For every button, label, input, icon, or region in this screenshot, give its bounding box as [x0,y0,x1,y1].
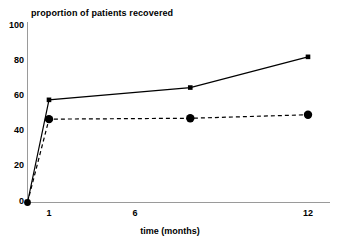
series-solid-line [28,57,309,203]
data-point-marker-circle [45,115,53,123]
series-dashed-line [28,115,309,203]
data-point-marker-circle [186,114,194,122]
data-point-marker-square [188,85,193,90]
chart-figure: proportion of patients recovered 100 80 … [0,0,340,244]
series-dashed-markers [24,111,312,206]
plot-area [0,0,340,244]
data-point-marker-circle [304,111,312,119]
origin-marker [24,199,31,206]
data-point-marker-square [306,55,311,60]
series-solid-markers [47,55,311,103]
data-point-marker-square [47,98,52,103]
